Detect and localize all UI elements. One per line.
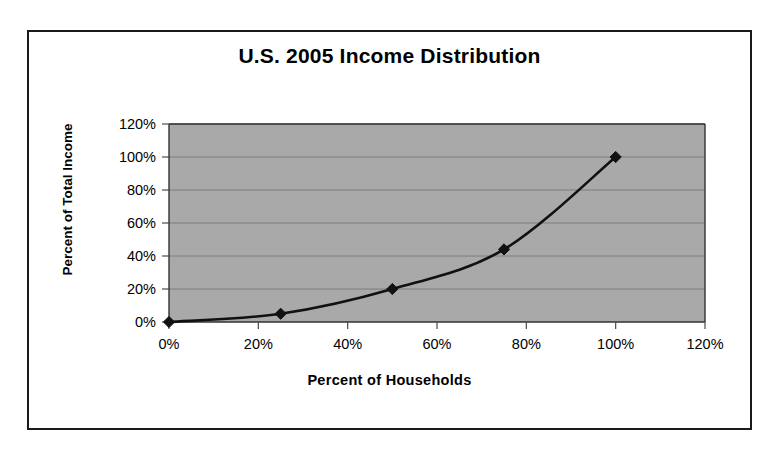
y-tick-label-20: 20% bbox=[127, 281, 156, 297]
x-tick-label-100: 100% bbox=[597, 336, 634, 352]
y-tick-label-0: 0% bbox=[135, 314, 156, 330]
y-tick-label-100: 100% bbox=[119, 149, 156, 165]
x-tick-label-0: 0% bbox=[159, 336, 180, 352]
y-tick-labels: 0%20%40%60%80%100%120% bbox=[119, 116, 156, 330]
x-tick-label-80: 80% bbox=[512, 336, 541, 352]
x-tick-label-120: 120% bbox=[686, 336, 723, 352]
x-tick-label-40: 40% bbox=[333, 336, 362, 352]
x-tick-label-20: 20% bbox=[244, 336, 273, 352]
chart-frame: U.S. 2005 Income Distribution Percent of… bbox=[27, 30, 752, 430]
plot-area: 0%20%40%60%80%100%120% 0%20%40%60%80%100… bbox=[29, 32, 754, 432]
y-tick-label-80: 80% bbox=[127, 182, 156, 198]
y-tick-label-60: 60% bbox=[127, 215, 156, 231]
y-tick-label-120: 120% bbox=[119, 116, 156, 132]
y-tick-label-40: 40% bbox=[127, 248, 156, 264]
x-tick-labels: 0%20%40%60%80%100%120% bbox=[159, 336, 724, 352]
x-tick-label-60: 60% bbox=[422, 336, 451, 352]
